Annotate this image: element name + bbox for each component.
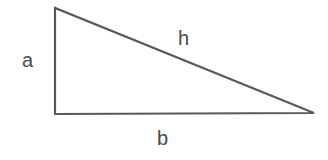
label-side-b: b [157,128,168,148]
label-hypotenuse-h: h [178,28,189,48]
right-triangle [55,8,314,114]
label-side-a: a [22,50,33,70]
